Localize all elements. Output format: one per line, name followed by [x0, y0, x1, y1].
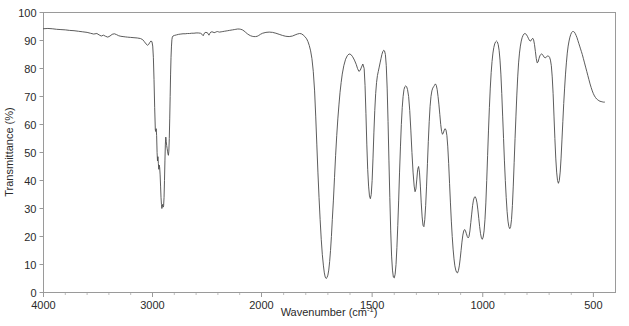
y-tick-label-80: 80: [24, 63, 36, 75]
y-tick-label-40: 40: [24, 175, 36, 187]
x-tick-label-1000: 1000: [471, 299, 495, 311]
x-tick-label-2000: 2000: [249, 299, 273, 311]
ir-spectrum-chart: 40003000200015001000500 0102030405060708…: [0, 0, 629, 326]
y-tick-label-90: 90: [24, 35, 36, 47]
y-tick-label-20: 20: [24, 231, 36, 243]
y-tick-label-100: 100: [18, 7, 36, 19]
y-tick-label-0: 0: [30, 287, 36, 299]
x-tick-label-3000: 3000: [140, 299, 164, 311]
y-axis-title: Transmittance (%): [3, 107, 15, 196]
y-tick-label-10: 10: [24, 259, 36, 271]
y-tick-label-70: 70: [24, 91, 36, 103]
x-axis-title: Wavenumber (cm-1): [281, 305, 378, 319]
x-tick-label-500: 500: [584, 299, 602, 311]
y-tick-label-50: 50: [24, 147, 36, 159]
y-tick-label-60: 60: [24, 119, 36, 131]
y-tick-label-30: 30: [24, 203, 36, 215]
x-tick-label-4000: 4000: [31, 299, 55, 311]
chart-canvas: 40003000200015001000500 0102030405060708…: [0, 0, 629, 326]
